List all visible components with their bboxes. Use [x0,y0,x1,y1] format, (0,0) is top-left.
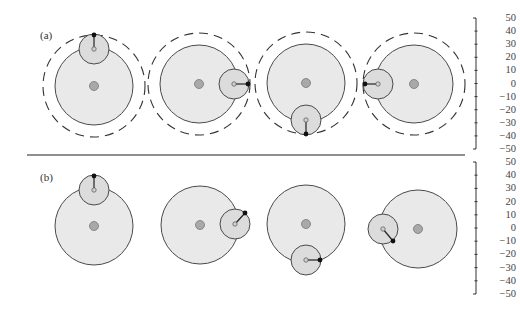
axis-tick-label: −40 [486,131,516,141]
small-disc-center [381,227,385,231]
axis-tick-label: −20 [486,249,516,259]
tip-marker [246,82,251,87]
small-disc-center [304,118,308,122]
small-disc-center [233,222,237,226]
tip-marker [243,211,248,216]
axis-tick-label: 40 [486,26,516,36]
axis-tick-label: 50 [486,157,516,167]
large-disc-center [302,220,311,229]
diagram-figure: (a) (b) 50403020100−10−20−30−40−50504030… [0,0,520,311]
panel-label-a: (a) [40,29,52,41]
large-disc-center [414,225,423,234]
tip-marker [304,132,309,137]
axis-tick-label: 0 [486,79,516,89]
axis-tick-label: 0 [486,223,516,233]
axis-tick-label: −30 [486,263,516,273]
axis-tick-label: 10 [486,210,516,220]
tip-marker [363,82,368,87]
axis-tick-label: 50 [486,13,516,23]
large-disc-center [195,80,204,89]
axis-tick-label: −50 [486,144,516,154]
diagram-canvas [0,0,520,311]
large-disc-center [196,221,205,230]
small-disc-center [304,258,308,262]
tip-marker [92,33,97,38]
tip-marker [318,258,323,263]
large-disc-center [410,80,419,89]
axis-tick-label: 30 [486,39,516,49]
axis-tick-label: −30 [486,118,516,128]
small-disc-center [376,82,380,86]
axis-tick-label: 10 [486,65,516,75]
axis-tick-label: 20 [486,52,516,62]
tip-marker [92,174,97,179]
large-disc-center [90,82,99,91]
small-disc-center [92,47,96,51]
axis-tick-label: −10 [486,92,516,102]
axis-tick-label: −20 [486,105,516,115]
axis-tick-label: −50 [486,289,516,299]
small-disc-center [232,82,236,86]
axis-tick-label: 40 [486,170,516,180]
panel-label-b: (b) [40,171,53,183]
axis-tick-label: 20 [486,197,516,207]
axis-tick-label: −40 [486,276,516,286]
large-disc-center [302,79,311,88]
axis-tick-label: 30 [486,183,516,193]
tip-marker [391,239,396,244]
axis-tick-label: −10 [486,236,516,246]
small-disc-center [92,188,96,192]
large-disc-center [90,222,99,231]
